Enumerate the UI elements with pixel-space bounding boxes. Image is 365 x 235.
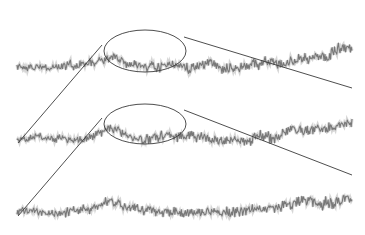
connector-2-left-line [18,118,102,216]
diagram-canvas [0,0,365,235]
magnification-diagram [0,0,365,235]
connector-1-left-line [18,45,102,143]
